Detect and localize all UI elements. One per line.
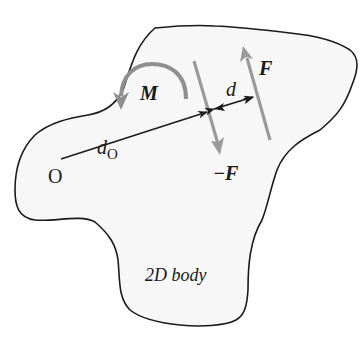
body-label: 2D body [145, 265, 207, 285]
point-o-label: O [48, 165, 62, 187]
moment-label: M [139, 82, 159, 104]
force-pos-label: F [258, 57, 273, 79]
moment-arm-label-sub: O [107, 146, 118, 162]
force-neg-label: −F [213, 162, 239, 184]
couple-diagram: M F −F d dO O 2D body [0, 0, 361, 345]
diagram-svg: M F −F d dO O 2D body [0, 0, 361, 345]
couple-distance-label: d [226, 78, 237, 100]
